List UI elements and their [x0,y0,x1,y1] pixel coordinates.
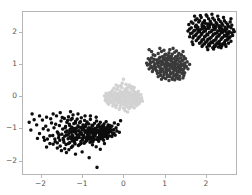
x-tick-mark [123,175,124,178]
x-tick-mark [41,175,42,178]
y-tick-label: −2 [6,157,17,165]
x-tick-label: 1 [162,180,167,188]
scatter-points-layer [23,12,237,175]
scatter-plot-figure: −2−1012 −2−1012 [0,0,252,195]
x-tick-mark [82,175,83,178]
y-tick-mark [19,64,22,65]
x-tick-mark [165,175,166,178]
y-tick-label: 2 [12,28,17,36]
y-tick-label: 0 [12,92,17,100]
y-tick-mark [19,161,22,162]
plot-area [22,11,237,175]
x-tick-label: −1 [76,180,87,188]
y-tick-mark [19,96,22,97]
y-tick-label: −1 [6,125,17,133]
x-tick-label: 0 [121,180,126,188]
y-tick-mark [19,32,22,33]
x-tick-mark [206,175,207,178]
x-tick-label: 2 [204,180,209,188]
y-tick-label: 1 [12,60,17,68]
y-tick-mark [19,128,22,129]
x-tick-label: −2 [35,180,46,188]
